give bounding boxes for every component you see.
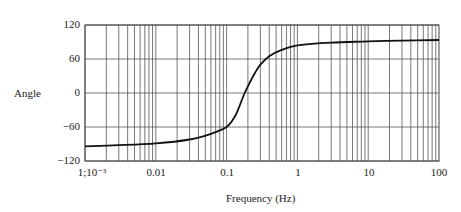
- x-tick-100: 100: [409, 166, 461, 178]
- x-tick-0.1: 0.1: [197, 166, 257, 178]
- y-tick-neg60: −60: [40, 120, 80, 132]
- x-axis-label: Frequency (Hz): [226, 192, 295, 204]
- y-tick-60: 60: [40, 52, 80, 64]
- x-tick-0.001: 1;10⁻³: [62, 166, 122, 179]
- x-tick-0.01: 0.01: [126, 166, 186, 178]
- y-tick-0: 0: [40, 86, 80, 98]
- y-axis-label: Angle: [14, 87, 41, 99]
- grid-lines: [85, 25, 439, 161]
- phase-plot: [0, 0, 461, 212]
- x-tick-1: 1: [268, 166, 328, 178]
- y-tick-120: 120: [40, 18, 80, 30]
- x-tick-10: 10: [339, 166, 399, 178]
- y-tick-neg120: −120: [40, 154, 80, 166]
